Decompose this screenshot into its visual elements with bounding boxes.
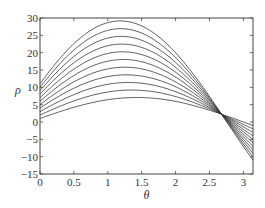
curve-3 xyxy=(40,82,253,132)
y-tick-label: 15 xyxy=(27,64,39,76)
x-tick-label: 1.5 xyxy=(135,176,149,188)
curve-6 xyxy=(40,60,253,143)
x-tick-label: 2 xyxy=(173,176,179,188)
chart: 00.511.522.53 −15−10−5051015202530 θ ρ xyxy=(0,0,265,208)
curve-2 xyxy=(40,90,253,129)
x-tick-label: 0.5 xyxy=(67,176,81,188)
y-tick-label: 30 xyxy=(27,12,39,24)
x-tick-label: 2.5 xyxy=(203,176,217,188)
y-tick-label: −5 xyxy=(26,133,38,145)
y-axis: −15−10−5051015202530 xyxy=(21,12,253,180)
y-tick-label: 0 xyxy=(33,116,39,128)
y-tick-label: 10 xyxy=(27,81,39,93)
y-tick-label: 20 xyxy=(27,47,39,59)
curve-group xyxy=(40,21,253,160)
y-tick-label: −15 xyxy=(21,168,39,180)
curve-7 xyxy=(40,52,253,146)
curve-9 xyxy=(40,36,253,153)
y-axis-label: ρ xyxy=(14,83,21,97)
x-axis-label: θ xyxy=(144,188,150,202)
x-tick-label: 0 xyxy=(37,176,43,188)
y-tick-label: −10 xyxy=(21,151,39,163)
curve-5 xyxy=(40,67,253,139)
x-tick-label: 3 xyxy=(241,176,247,188)
curve-10 xyxy=(40,29,253,157)
y-tick-label: 5 xyxy=(33,99,39,111)
plot-frame xyxy=(40,18,253,174)
y-tick-label: 25 xyxy=(27,29,39,41)
curve-8 xyxy=(40,44,253,150)
x-tick-label: 1 xyxy=(105,176,111,188)
